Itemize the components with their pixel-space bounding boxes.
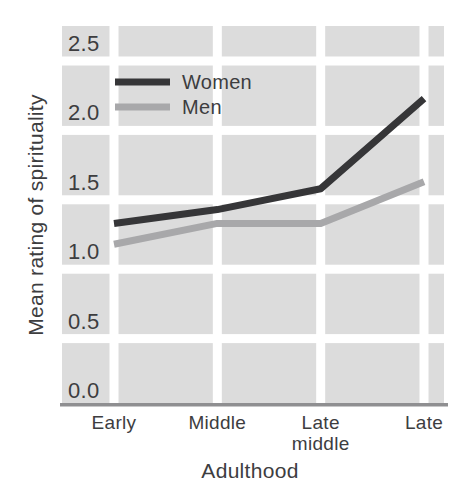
x-axis-title: Adulthood xyxy=(201,459,298,482)
v-gridline xyxy=(420,26,429,404)
y-tick-label: 0.5 xyxy=(68,309,99,334)
v-gridline xyxy=(316,26,325,404)
y-tick-label: 0.0 xyxy=(68,378,99,403)
legend-label-men: Men xyxy=(182,96,222,118)
y-tick-label: 2.5 xyxy=(68,31,99,56)
y-tick-label: 2.0 xyxy=(68,100,99,125)
y-axis-title: Mean rating of spirituality xyxy=(24,94,47,336)
h-gridline xyxy=(62,334,444,343)
y-tick-label: 1.5 xyxy=(68,170,99,195)
spirituality-line-chart: 0.00.51.01.52.02.5 EarlyMiddleLatemiddle… xyxy=(0,0,462,501)
x-tick-layer: EarlyMiddleLatemiddleLate xyxy=(92,412,443,454)
x-tick-label: Middle xyxy=(188,412,246,433)
h-gridline xyxy=(62,265,444,274)
h-gridline xyxy=(62,57,444,66)
y-tick-label: 1.0 xyxy=(68,239,99,264)
x-tick-label: Latemiddle xyxy=(292,412,350,454)
x-tick-label: Late xyxy=(405,412,443,433)
axis-layer xyxy=(60,403,448,407)
legend-label-women: Women xyxy=(182,71,252,93)
x-axis-line xyxy=(60,403,448,407)
x-tick-label: Early xyxy=(92,412,137,433)
spirituality-figure: 0.00.51.01.52.02.5 EarlyMiddleLatemiddle… xyxy=(0,0,462,501)
